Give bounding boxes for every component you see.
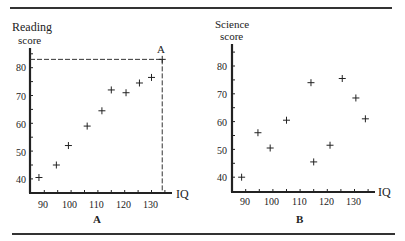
scatter-plots: [0, 0, 405, 241]
